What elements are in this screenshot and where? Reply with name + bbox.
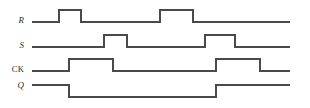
waveform-trace-s [32, 35, 290, 47]
signal-label-s: S [4, 41, 24, 50]
waveform-trace-ck [32, 59, 290, 71]
signal-label-ck: CK [2, 65, 24, 74]
timing-diagram-figure: R S CK Q [0, 0, 310, 108]
signal-label-r: R [4, 16, 24, 25]
waveform-canvas [0, 0, 310, 108]
signal-label-q: Q [4, 81, 24, 90]
waveform-traces [32, 10, 290, 97]
waveform-trace-r [32, 10, 290, 22]
waveform-trace-q [32, 85, 290, 97]
